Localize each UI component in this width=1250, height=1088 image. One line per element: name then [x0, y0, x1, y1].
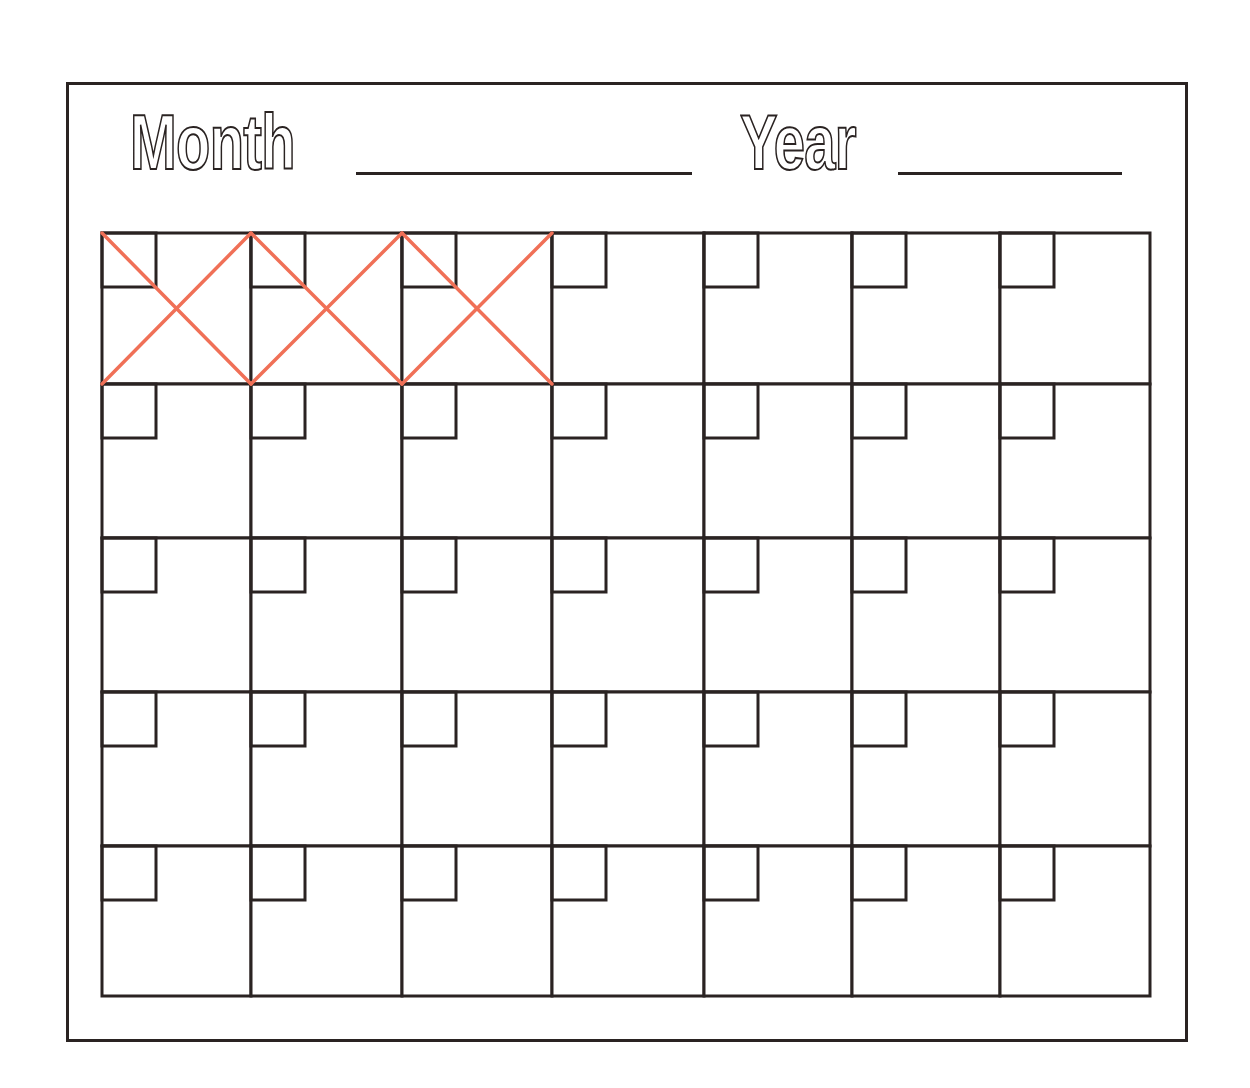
calendar-cell[interactable]: [102, 846, 251, 996]
calendar-cell[interactable]: [1000, 384, 1150, 538]
cell-border: [1000, 846, 1150, 996]
cell-border: [102, 384, 251, 538]
calendar-cell[interactable]: [1000, 846, 1150, 996]
cell-border: [852, 538, 1000, 692]
calendar-cell[interactable]: [852, 233, 1000, 384]
calendar-cell[interactable]: [852, 384, 1000, 538]
calendar-cell[interactable]: [552, 538, 704, 692]
cell-border: [402, 692, 552, 846]
year-label: Year: [740, 103, 856, 181]
cell-border: [704, 233, 852, 384]
cell-border: [704, 384, 852, 538]
calendar-cell[interactable]: [402, 692, 552, 846]
cell-border: [552, 538, 704, 692]
cell-border: [251, 692, 402, 846]
calendar-cell[interactable]: [552, 846, 704, 996]
calendar-cell[interactable]: [251, 846, 402, 996]
calendar-grid-lines: [100, 231, 1154, 999]
cell-border: [102, 692, 251, 846]
cell-border: [251, 846, 402, 996]
year-blank-line[interactable]: [898, 172, 1122, 175]
month-label: Month: [130, 103, 295, 181]
calendar-cell[interactable]: [102, 538, 251, 692]
calendar-cell[interactable]: [552, 233, 704, 384]
calendar-cell[interactable]: [251, 384, 402, 538]
calendar-cell[interactable]: [102, 384, 251, 538]
cell-border: [251, 384, 402, 538]
cell-border: [1000, 538, 1150, 692]
calendar-cell[interactable]: [704, 692, 852, 846]
cell-border: [102, 538, 251, 692]
cell-border: [852, 233, 1000, 384]
cell-border: [852, 846, 1000, 996]
calendar-cell[interactable]: [704, 233, 852, 384]
calendar-cell[interactable]: [704, 538, 852, 692]
cell-border: [852, 692, 1000, 846]
calendar-cell[interactable]: [552, 692, 704, 846]
cell-border: [251, 538, 402, 692]
calendar-cell[interactable]: [704, 846, 852, 996]
cell-border: [852, 384, 1000, 538]
calendar-grid: [100, 231, 1154, 999]
calendar-cell[interactable]: [852, 692, 1000, 846]
cell-border: [402, 384, 552, 538]
calendar-cell[interactable]: [1000, 233, 1150, 384]
cell-border: [402, 538, 552, 692]
calendar-cell[interactable]: [251, 538, 402, 692]
cell-border: [402, 846, 552, 996]
cell-border: [704, 538, 852, 692]
cell-border: [552, 384, 704, 538]
calendar-cell[interactable]: [402, 384, 552, 538]
cell-border: [1000, 692, 1150, 846]
calendar-cell[interactable]: [552, 384, 704, 538]
cell-border: [552, 233, 704, 384]
cell-border: [1000, 384, 1150, 538]
calendar-cell[interactable]: [102, 692, 251, 846]
calendar-cell[interactable]: [852, 846, 1000, 996]
cell-border: [552, 846, 704, 996]
month-blank-line[interactable]: [356, 172, 692, 175]
cell-border: [552, 692, 704, 846]
calendar-cell[interactable]: [704, 384, 852, 538]
calendar-cell[interactable]: [402, 846, 552, 996]
calendar-cell[interactable]: [402, 538, 552, 692]
cell-border: [704, 846, 852, 996]
calendar-cell[interactable]: [251, 692, 402, 846]
calendar-cell[interactable]: [1000, 538, 1150, 692]
cell-border: [704, 692, 852, 846]
calendar-cell[interactable]: [1000, 692, 1150, 846]
cell-border: [1000, 233, 1150, 384]
calendar-cell[interactable]: [852, 538, 1000, 692]
cell-border: [102, 846, 251, 996]
